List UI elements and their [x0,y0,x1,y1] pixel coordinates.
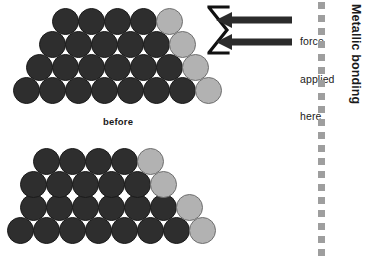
side-label-metallic-bonding: Metallic bonding [349,4,363,104]
atom-dark [39,31,66,58]
divider-dot [318,28,325,35]
atom-dark [13,77,40,104]
atom-light [182,54,209,81]
atom-dark [85,148,112,175]
atom-light [150,171,177,198]
atom-dark [46,194,73,221]
atom-dark [20,171,47,198]
atom-dark [59,148,86,175]
divider-dot [318,171,325,178]
atom-dark [98,171,125,198]
atom-dark [33,217,60,244]
divider-dot [318,119,325,126]
arrow-left-icon-top [216,12,292,28]
atom-dark [124,171,151,198]
atom-light [137,148,164,175]
atom-dark [65,31,92,58]
atom-dark [98,194,125,221]
divider-dot [318,132,325,139]
atom-dark [91,77,118,104]
atom-dark [72,194,99,221]
atom-dark [78,8,105,35]
atom-dark [143,77,170,104]
atom-dark [130,8,157,35]
divider-dot [318,184,325,191]
divider-dot [318,158,325,165]
atom-light [195,77,222,104]
divider-dot [318,80,325,87]
atom-dark [52,54,79,81]
atom-dark [117,31,144,58]
atom-dark [143,31,170,58]
atom-dark [111,217,138,244]
atom-dark [26,54,53,81]
atom-dark [78,54,105,81]
atom-dark [137,217,164,244]
divider-dot [318,197,325,204]
atom-dark [104,8,131,35]
atom-light [169,31,196,58]
atom-dark [59,217,86,244]
divider-dot [318,93,325,100]
atom-light [156,8,183,35]
panel-caption-before: before [103,116,133,127]
atom-dark [150,194,177,221]
arrow-left-icon-bottom [216,34,292,50]
atom-dark [117,77,144,104]
atom-dark [124,194,151,221]
atom-dark [65,77,92,104]
divider-dot [318,41,325,48]
atom-dark [169,77,196,104]
atom-light [176,194,203,221]
atom-dark [7,217,34,244]
atom-dark [85,217,112,244]
divider-dot [318,145,325,152]
divider-dot [318,223,325,230]
atom-light [189,217,216,244]
atom-dark [72,171,99,198]
divider-dot [318,236,325,243]
atom-dark [104,54,131,81]
atom-dark [130,54,157,81]
divider-dot [318,2,325,9]
divider-dot [318,106,325,113]
atom-dark [156,54,183,81]
atom-dark [20,194,47,221]
atom-dark [39,77,66,104]
divider-dot [318,249,325,256]
atom-dark [111,148,138,175]
atom-dark [91,31,118,58]
divider-dot [318,210,325,217]
divider-dot [318,67,325,74]
atom-dark [163,217,190,244]
atom-dark [33,148,60,175]
section-divider [318,0,325,251]
atom-dark [46,171,73,198]
divider-dot [318,15,325,22]
divider-dot [318,54,325,61]
atom-dark [52,8,79,35]
